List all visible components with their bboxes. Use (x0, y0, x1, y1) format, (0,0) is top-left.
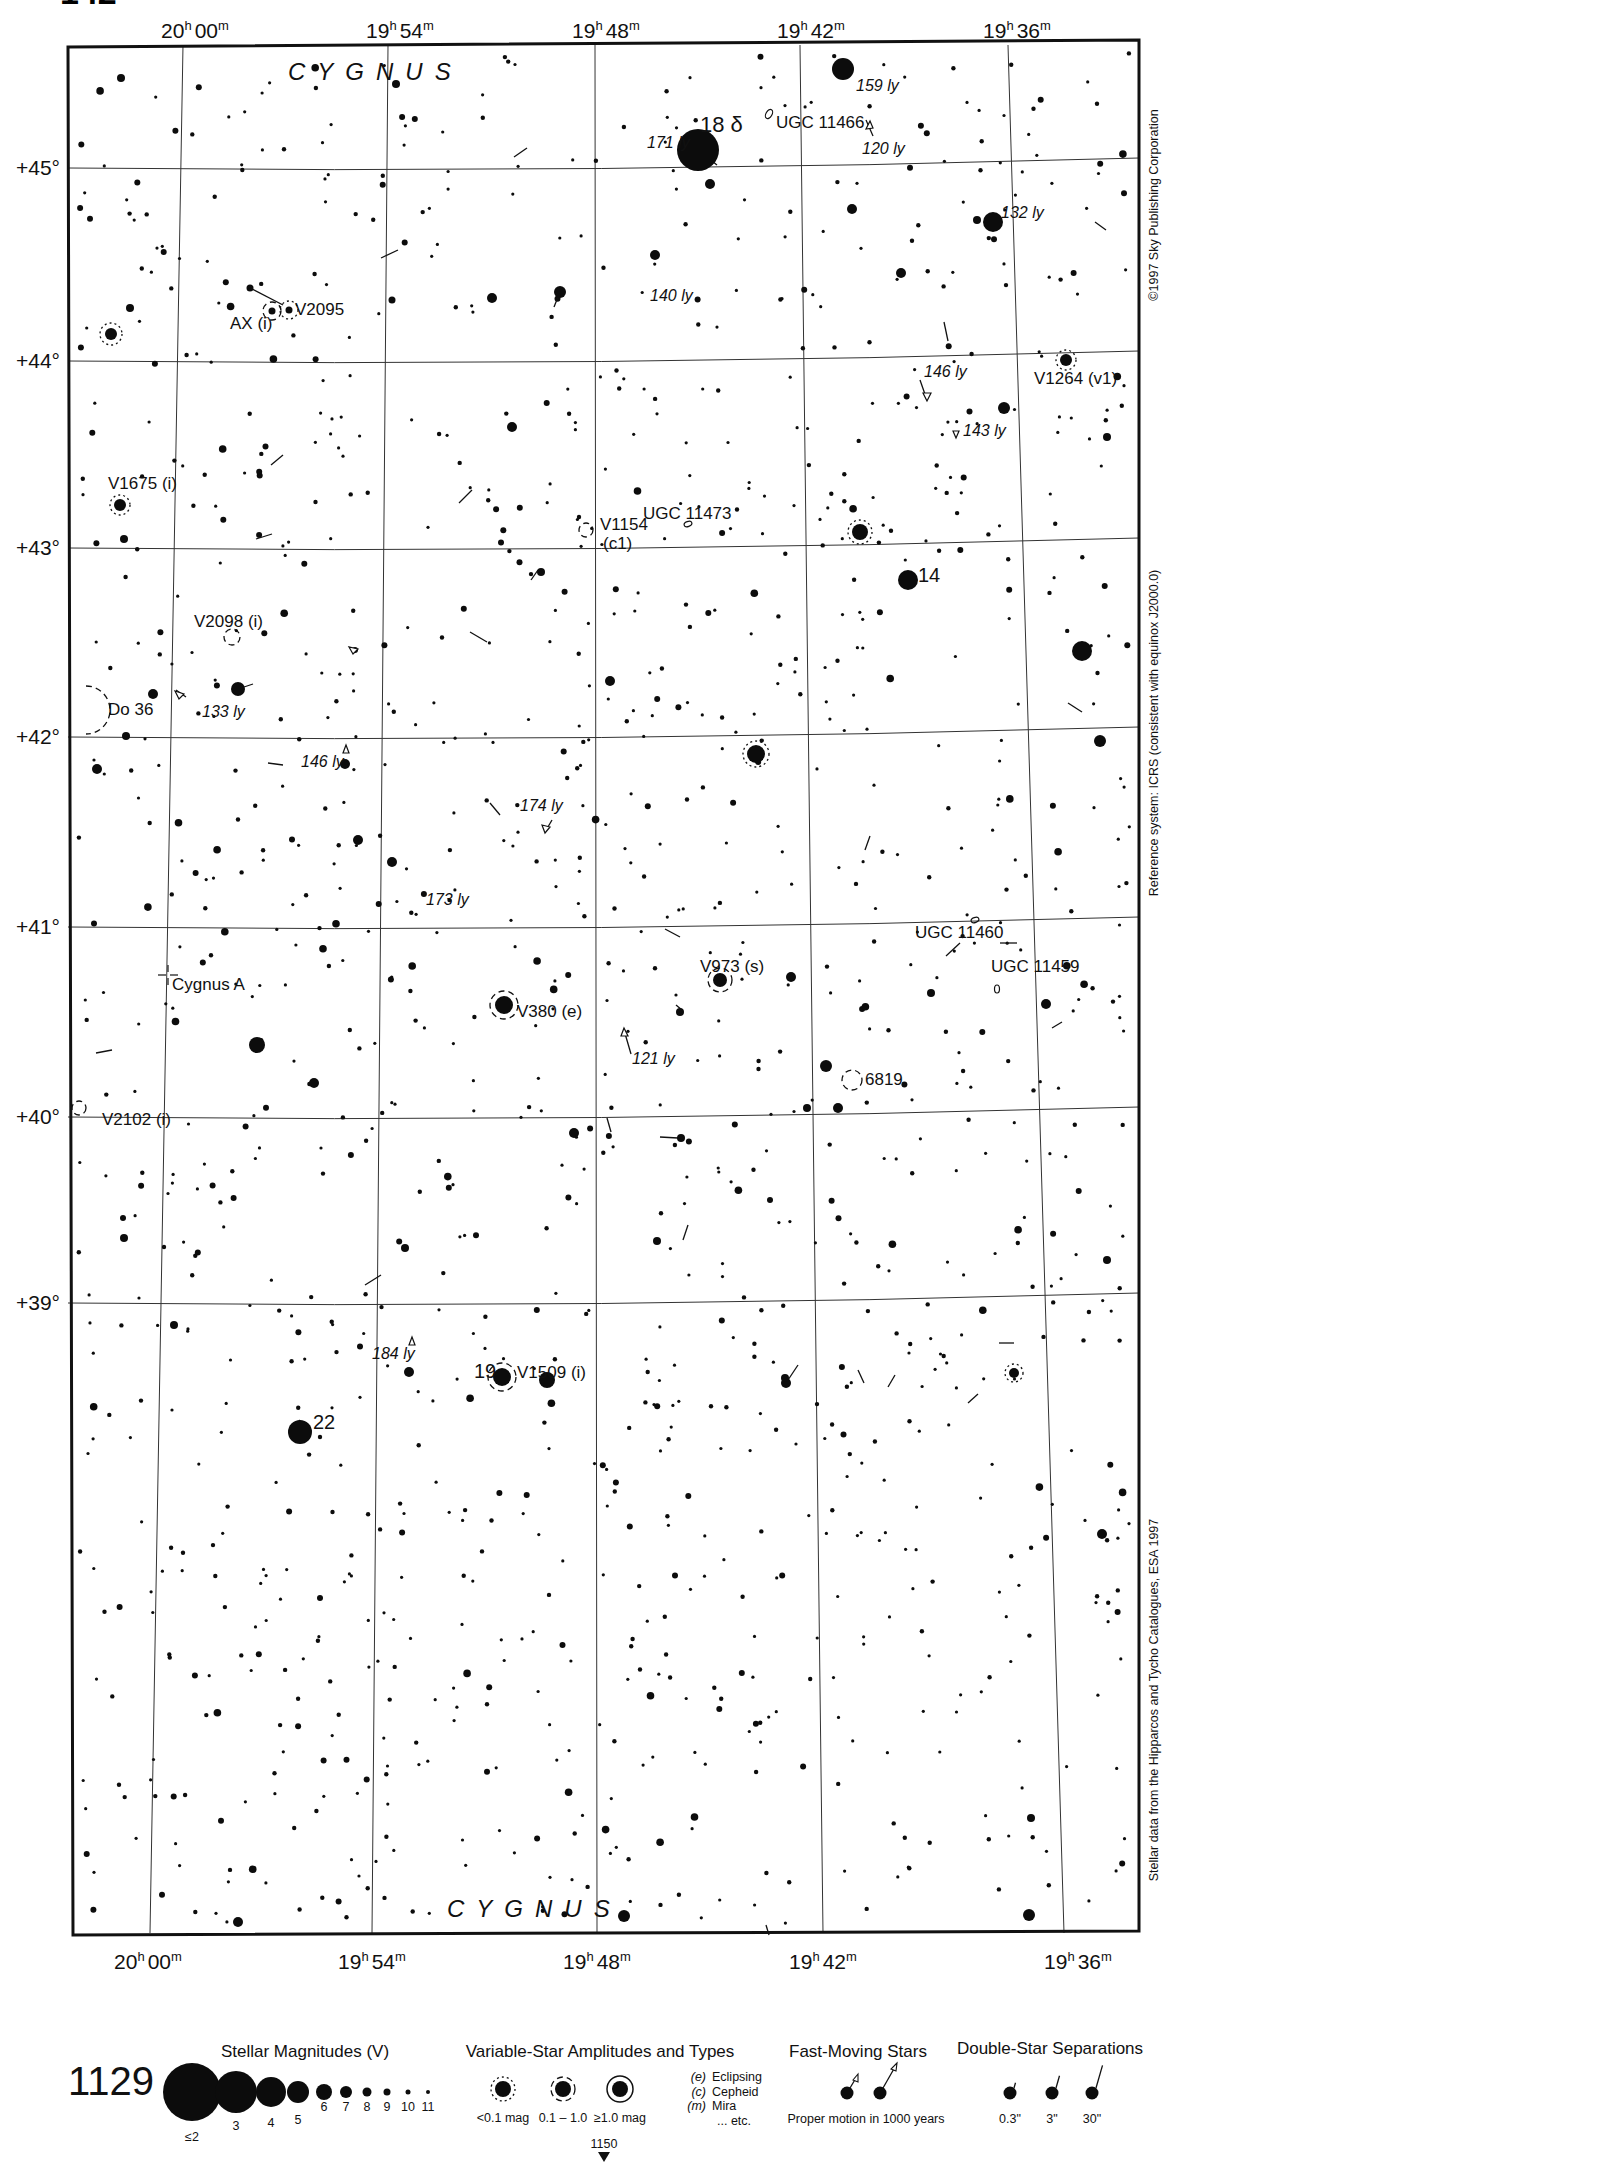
star (444, 1173, 452, 1181)
star (753, 1721, 759, 1727)
star (129, 1436, 132, 1439)
star (534, 1024, 537, 1027)
star (562, 589, 568, 595)
star (296, 1406, 300, 1410)
star (504, 411, 508, 415)
star (534, 1307, 540, 1313)
star (1118, 923, 1121, 926)
star (858, 979, 861, 982)
star (713, 906, 716, 909)
star (78, 141, 84, 147)
star (537, 1690, 540, 1693)
motion-vector (683, 1225, 688, 1240)
star (717, 1170, 720, 1173)
star (659, 843, 662, 846)
star (849, 1232, 852, 1235)
dec-axis: +45°+44°+43°+42°+41°+40°+39° (16, 156, 60, 1314)
star (1017, 703, 1020, 706)
star (339, 887, 342, 890)
star (170, 892, 174, 896)
star (998, 1591, 1001, 1594)
star (1071, 270, 1077, 276)
star (945, 491, 949, 495)
star (965, 101, 968, 104)
star (719, 1317, 725, 1323)
star (583, 1168, 586, 1171)
variable-sample-icon (495, 2081, 511, 2097)
star (653, 966, 657, 970)
star (886, 1028, 890, 1032)
constellation-label: CYGNUS (288, 58, 463, 85)
star (329, 432, 332, 435)
bright-star (820, 1060, 832, 1072)
star (554, 609, 557, 612)
star (761, 532, 764, 535)
star (1056, 431, 1059, 434)
star (672, 1572, 678, 1578)
star (87, 216, 93, 222)
star (239, 870, 243, 874)
star (358, 1396, 361, 1399)
star (852, 694, 855, 697)
dec-label: +45° (16, 156, 60, 179)
star (548, 1876, 551, 1879)
ra-label-top: 19h36m (983, 18, 1051, 42)
star (437, 1308, 440, 1311)
star (172, 1018, 180, 1026)
distance-label: 133 ly (202, 703, 246, 720)
star (778, 297, 782, 301)
star (994, 1252, 997, 1255)
object-label: V973 (s) (700, 957, 764, 976)
star (630, 792, 633, 795)
star (999, 161, 1002, 164)
star (779, 1572, 785, 1578)
star (174, 1842, 177, 1845)
star (1017, 1584, 1020, 1587)
star (1117, 885, 1120, 888)
star (882, 63, 885, 66)
star (219, 445, 227, 453)
star (598, 1723, 601, 1726)
star (763, 495, 766, 498)
star (485, 1702, 489, 1706)
star (290, 1314, 293, 1317)
star (92, 758, 95, 761)
star (349, 492, 353, 496)
star (792, 1110, 795, 1113)
star (1119, 1489, 1127, 1497)
star (491, 741, 494, 744)
star (671, 1404, 674, 1407)
star (333, 862, 336, 865)
star (579, 764, 582, 767)
bright-star (122, 732, 130, 740)
star (829, 492, 833, 496)
star (677, 1400, 680, 1403)
star (362, 1332, 365, 1335)
star (150, 271, 153, 274)
star (818, 518, 821, 521)
star (1116, 1537, 1119, 1540)
star (606, 1133, 612, 1139)
star (688, 474, 691, 477)
star (403, 144, 406, 147)
star (1023, 1216, 1026, 1219)
legend-magnitudes: Stellar Magnitudes (V) ≤234567891011 (163, 2042, 435, 2144)
star (872, 784, 875, 787)
star (157, 629, 163, 635)
star (148, 821, 152, 825)
star (772, 1361, 775, 1364)
star (243, 1124, 249, 1130)
star (749, 1449, 752, 1452)
star (312, 272, 316, 276)
ra-label-bottom: 19h36m (1044, 1949, 1112, 1973)
star (159, 1892, 165, 1898)
star (339, 1464, 342, 1467)
star (371, 218, 375, 222)
star (561, 748, 567, 754)
star (93, 540, 99, 546)
star (753, 713, 756, 716)
star (382, 1737, 385, 1740)
star (395, 900, 398, 903)
motion-vector (944, 322, 948, 341)
bright-star (852, 524, 868, 540)
